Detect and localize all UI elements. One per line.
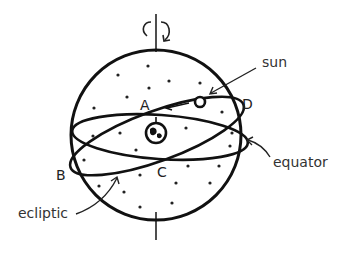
sun-label: sun [262, 54, 287, 70]
point-a-label: A [140, 97, 150, 113]
earth-icon [146, 117, 166, 143]
celestial-sphere-diagram: A B C D sun equator ecliptic [0, 0, 346, 254]
equator-pointer-arrow-icon [248, 140, 270, 157]
point-d-label: D [242, 96, 253, 112]
point-b-label: B [56, 167, 66, 183]
ecliptic-label: ecliptic [18, 205, 68, 221]
sun-icon [195, 97, 205, 107]
point-c-label: C [157, 164, 167, 180]
sun-pointer-arrow-icon [211, 68, 256, 93]
equator-label: equator [273, 154, 328, 170]
